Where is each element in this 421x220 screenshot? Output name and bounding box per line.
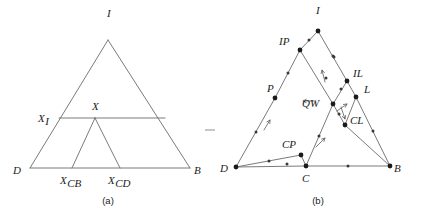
node-label-IL: IL [352,67,363,79]
node-label-sub-XI: I [44,115,50,127]
panel-b: IDBIPPILLQWCLCPC(b) [219,4,401,206]
node-dot-C [304,164,309,169]
edge-I-B [108,40,190,168]
edge-D-C [236,166,306,167]
node-label-I: I [315,4,321,16]
node-label-P: P [266,82,274,94]
midpoint-dot [255,131,258,134]
midpoint-dot [325,77,328,80]
midpoint-dot [347,165,350,168]
node-label-sub-XCB: CB [67,177,81,189]
node-label-XCB: XCB [59,174,82,189]
node-dot-I [316,29,321,34]
node-dot-B [388,164,393,169]
figure-svg: IDBXXIXCBXCD(a) IDBIPPILLQWCLCPC(b) [0,0,421,220]
midpoint-dot [287,72,290,75]
node-dot-CL [343,123,348,128]
node-dot-IP [298,48,303,53]
node-label-C: C [302,172,310,184]
node-dot-IL [345,79,350,84]
edge-QW-IL [333,81,347,104]
panel-caption: (b) [312,195,324,206]
node-label-B: B [394,162,401,174]
panel-a: IDBXXIXCBXCD(a) [12,7,201,206]
midpoint-dot [268,160,271,163]
node-label-D: D [219,162,228,174]
node-label-XI: XI [37,112,50,127]
node-label-XCD: XCD [107,174,131,189]
midpoint-dot [333,56,336,59]
midpoint-dot [340,88,343,91]
node-label-D: D [12,164,21,176]
node-label-QW: QW [302,97,320,109]
edge-X-XCD [95,118,120,168]
midpoint-dot [286,163,289,166]
midpoint-dot [372,130,375,133]
node-label-sub-XCD: CD [115,177,130,189]
node-label-X: X [91,100,100,112]
figure-root: IDBXXIXCBXCD(a) IDBIPPILLQWCLCPC(b) [0,0,421,220]
node-label-I: I [106,7,112,19]
node-dot-L [354,95,359,100]
node-label-IP: IP [278,35,290,47]
edge-IP-QW [300,50,333,104]
node-label-CP: CP [282,138,296,150]
node-dot-P [273,96,278,101]
node-label-L: L [363,83,370,95]
edge-X-XCB [72,118,95,168]
node-dot-CP [299,153,304,158]
panel-caption: (a) [102,195,114,206]
node-label-CL: CL [350,114,363,126]
midpoint-dot [338,113,341,116]
midpoint-dot [308,39,311,42]
node-dot-D [234,165,239,170]
edge-CL-B [345,125,390,166]
midpoint-dot [318,135,321,138]
node-label-B: B [194,164,201,176]
node-dot-QW [331,102,336,107]
edge-IL-L [347,81,356,97]
